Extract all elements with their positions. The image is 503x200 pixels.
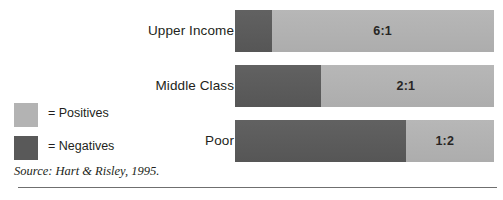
source-note: Source: Hart & Risley, 1995.	[14, 165, 159, 178]
legend-item-positives: = Positives	[14, 103, 214, 136]
bar-track-poor: 1:2	[235, 120, 494, 162]
chart-legend: = Positives = Negatives	[14, 103, 214, 169]
bar-track-upper-income: 6:1	[235, 10, 494, 52]
bar-track-middle-class: 2:1	[235, 65, 494, 107]
bar-row-poor: 1:2	[235, 120, 494, 162]
bottom-divider	[18, 187, 497, 188]
legend-label-negatives: = Negatives	[48, 140, 114, 153]
stacked-bar-chart-figure: Upper Income 6:1 Middle Class 2:1 Poor 1…	[0, 0, 503, 200]
category-label-upper-income: Upper Income	[34, 24, 234, 38]
bar-row-upper-income: 6:1	[235, 10, 494, 52]
bar-segment-negatives-poor	[235, 120, 406, 162]
category-label-middle-class: Middle Class	[34, 79, 234, 93]
bar-value-upper-income: 6:1	[253, 10, 494, 52]
legend-swatch-positives-icon	[14, 103, 38, 127]
bar-segment-negatives-middle-class	[235, 65, 321, 107]
bar-segment-negatives-upper-income	[235, 10, 272, 52]
legend-swatch-negatives-icon	[14, 136, 38, 160]
legend-label-positives: = Positives	[48, 107, 109, 120]
bar-row-middle-class: 2:1	[235, 65, 494, 107]
